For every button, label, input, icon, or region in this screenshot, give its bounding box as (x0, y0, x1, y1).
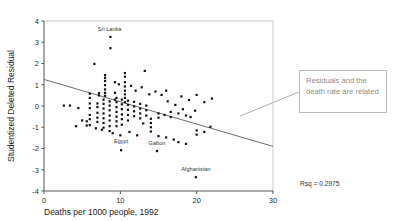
data-point (170, 111, 172, 113)
x-axis-tick-label: 20 (192, 196, 200, 205)
data-point (121, 124, 123, 126)
x-axis-tick-label: 10 (116, 196, 124, 205)
data-point (124, 85, 126, 87)
data-point (109, 104, 111, 106)
x-axis-tick-label: 30 (269, 196, 277, 205)
data-point (86, 124, 88, 126)
data-point (127, 109, 129, 111)
data-point (156, 150, 158, 152)
data-point (96, 121, 98, 123)
data-point (130, 85, 132, 87)
data-point (135, 90, 137, 92)
data-point (86, 120, 88, 122)
data-point (109, 114, 111, 116)
data-point (96, 117, 98, 119)
data-point (196, 134, 198, 136)
data-point (104, 84, 106, 86)
data-point (102, 122, 104, 124)
data-point (115, 125, 117, 127)
data-point (139, 107, 141, 109)
data-point (109, 36, 111, 38)
data-point (114, 81, 116, 83)
data-point (104, 77, 106, 79)
data-point (209, 126, 211, 128)
data-point (124, 101, 126, 103)
data-point (89, 102, 91, 104)
data-point (89, 124, 91, 126)
data-point (145, 114, 147, 116)
data-point (124, 97, 126, 99)
data-point (128, 131, 130, 133)
data-point (104, 80, 106, 82)
annotation-callout: Residuals and the death rate are related (299, 70, 387, 113)
data-point (112, 132, 114, 134)
x-axis-title: Deaths per 1000 people, 1992 (44, 207, 159, 217)
data-point (109, 100, 111, 102)
data-point (127, 119, 129, 121)
data-point-label: Egypt (114, 138, 129, 144)
data-point (164, 114, 166, 116)
data-point (173, 138, 175, 140)
data-point (115, 106, 117, 108)
data-point (121, 118, 123, 120)
data-point (170, 116, 172, 118)
data-point-label: Sri Lanka (98, 26, 123, 32)
y-axis-tick-label: 0 (35, 102, 39, 111)
data-point (133, 105, 135, 107)
data-point (203, 101, 205, 103)
data-point (127, 104, 129, 106)
callout-connector-line (240, 92, 299, 116)
data-point (196, 129, 198, 131)
data-point (211, 97, 213, 99)
data-point (141, 86, 143, 88)
data-point (182, 108, 184, 110)
data-point (98, 92, 100, 94)
y-axis-tick-label: -3 (32, 166, 39, 175)
data-point (157, 112, 159, 114)
data-point (109, 47, 111, 49)
data-point (203, 131, 205, 133)
data-point (93, 63, 95, 65)
data-point (196, 94, 198, 96)
data-point (150, 130, 152, 132)
data-point (136, 134, 138, 136)
data-point (145, 109, 147, 111)
data-point (69, 104, 71, 106)
data-point (177, 112, 179, 114)
data-point (89, 93, 91, 95)
data-point (96, 106, 98, 108)
data-point (98, 94, 100, 96)
data-point (157, 135, 159, 137)
data-point (124, 81, 126, 83)
data-point (124, 90, 126, 92)
annotation-callout-text: Residuals and the death rate are related (306, 76, 384, 97)
data-point (121, 99, 123, 101)
data-point (127, 114, 129, 116)
x-axis-tick-label: 0 (42, 196, 46, 205)
data-point (96, 112, 98, 114)
data-point (167, 100, 169, 102)
data-point (127, 100, 129, 102)
data-point (89, 97, 91, 99)
data-point (102, 127, 104, 129)
data-point (115, 120, 117, 122)
data-point (89, 107, 91, 109)
data-point (150, 118, 152, 120)
data-point (89, 118, 91, 120)
data-point (177, 141, 179, 143)
data-point (139, 117, 141, 119)
y-axis-tick-label: 1 (35, 81, 39, 90)
y-axis-tick-label: 3 (35, 38, 39, 47)
chart-screenshot: -4-3-2-1012340102030Deaths per 1000 peop… (0, 0, 395, 221)
data-point (142, 122, 144, 124)
data-point (150, 126, 152, 128)
data-point (133, 101, 135, 103)
data-point (102, 107, 104, 109)
data-point (104, 74, 106, 76)
data-point (139, 103, 141, 105)
data-point (185, 114, 187, 116)
y-axis-tick-label: -1 (32, 123, 39, 132)
data-point (165, 90, 167, 92)
data-point (121, 108, 123, 110)
data-point (121, 103, 123, 105)
